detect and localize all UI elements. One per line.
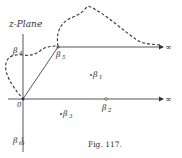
beta5-subscript: 5 bbox=[62, 54, 66, 60]
beta6-subscript: 6 bbox=[19, 140, 23, 146]
origin-point bbox=[22, 98, 25, 101]
z-plane-diagram: z-Plane ∞ ∞ 0 β 4 β 5 β 1 β 2 β 3 bbox=[0, 0, 182, 158]
beta4-symbol: β bbox=[12, 46, 18, 55]
beta4-subscript: 4 bbox=[18, 50, 23, 56]
point-beta1: β 1 bbox=[90, 70, 102, 80]
upper-line-infinity-label: ∞ bbox=[165, 43, 172, 52]
point-beta2: β 2 bbox=[101, 98, 112, 113]
beta2-symbol: β bbox=[101, 103, 107, 112]
beta3-subscript: 3 bbox=[69, 113, 73, 119]
beta6-symbol: β bbox=[12, 136, 18, 145]
plane-label: z-Plane bbox=[8, 19, 42, 29]
figure-caption: Fig. 117. bbox=[88, 140, 122, 149]
beta5-symbol: β bbox=[55, 50, 61, 59]
point-beta6: β 6 bbox=[12, 136, 24, 146]
beta1-symbol: β bbox=[92, 70, 98, 79]
point-beta3: β 3 bbox=[60, 109, 73, 119]
point-beta4: β 4 bbox=[12, 46, 23, 56]
beta2-subscript: 2 bbox=[107, 107, 112, 113]
beta1-subscript: 1 bbox=[99, 74, 103, 80]
point-beta5: β 5 bbox=[55, 46, 66, 60]
origin-label: 0 bbox=[17, 101, 22, 109]
slant-boundary-line bbox=[23, 47, 58, 99]
real-axis-infinity-label: ∞ bbox=[165, 95, 172, 104]
beta3-symbol: β bbox=[62, 109, 68, 118]
